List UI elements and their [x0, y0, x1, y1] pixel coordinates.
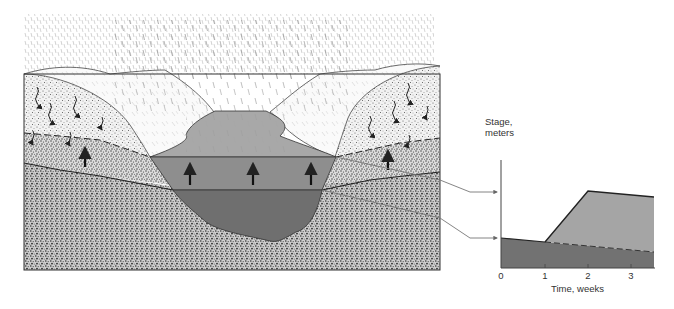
- x-tick-0: 0: [498, 270, 503, 281]
- storm-stage-area: [545, 191, 654, 252]
- y-axis-label-line1: Stage,: [485, 116, 512, 127]
- stage-hydrograph: [501, 160, 655, 268]
- y-axis-label-line2: meters: [485, 127, 514, 138]
- x-tick-3: 3: [628, 270, 633, 281]
- diagram-canvas: [0, 0, 674, 309]
- x-axis-label: Time, weeks: [551, 283, 604, 294]
- x-tick-2: 2: [585, 270, 590, 281]
- x-tick-1: 1: [542, 270, 547, 281]
